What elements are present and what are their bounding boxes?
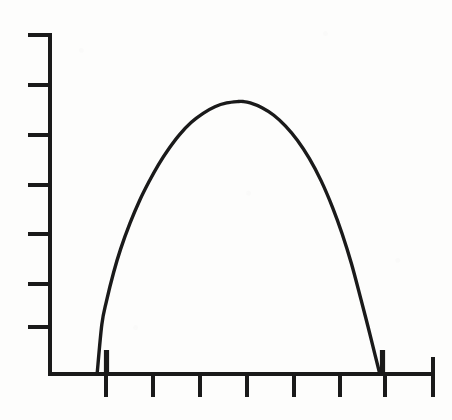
- y-axis-ticks: [28, 35, 51, 327]
- data-series-group: [97, 101, 382, 375]
- figure-page: [0, 0, 452, 420]
- plot-canvas: [0, 0, 452, 420]
- dome-curve: [97, 101, 380, 374]
